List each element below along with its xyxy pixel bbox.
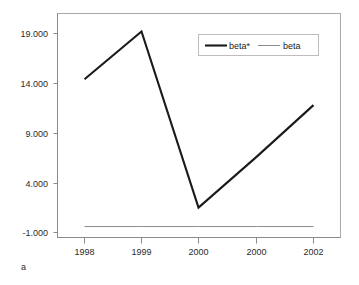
line-chart: 19.000 14.000 9.000 4.000 -1.000 1998 19… [0,0,359,285]
x-tick-label-2000: 2000 [188,247,208,257]
y-tick-label-19: 19.000 [20,29,48,39]
x-tick-label-1999: 1999 [131,247,151,257]
y-tick-label-14: 14.000 [20,79,48,89]
x-tick-label-2001: 2000 [246,247,266,257]
x-tick-label-2002: 2002 [303,247,323,257]
y-tick-marks [54,34,58,233]
y-tick-label-neg1: -1.000 [22,228,48,238]
x-tick-marks [85,238,314,244]
legend-label-beta-star: beta* [229,41,251,51]
panel-label: a [21,262,26,272]
legend: beta* beta [199,35,319,56]
y-tick-label-4: 4.000 [25,179,48,189]
legend-label-beta: beta [283,41,301,51]
y-tick-label-9: 9.000 [25,129,48,139]
figure-container: 19.000 14.000 9.000 4.000 -1.000 1998 19… [0,0,359,285]
x-tick-label-1998: 1998 [74,247,94,257]
